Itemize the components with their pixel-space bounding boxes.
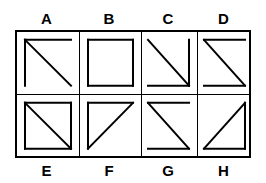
cell-label-f: F (78, 159, 140, 181)
shape-cell-c[interactable] (142, 32, 198, 94)
cell-label-b: B (78, 7, 140, 29)
shape-cell-e[interactable] (17, 95, 80, 157)
shape-cell-b[interactable] (80, 32, 142, 94)
figure-canvas: A B C D (0, 0, 266, 183)
shape-grid-row-top (17, 32, 249, 95)
shape-grid-row-bottom (17, 95, 249, 157)
cell-label-g: G (140, 159, 196, 181)
top-label-row: A B C D (15, 7, 251, 29)
cell-label-c: C (140, 7, 196, 29)
shape-f-icon (80, 95, 141, 157)
shape-c-icon (142, 32, 197, 94)
cell-label-a: A (15, 7, 78, 29)
shape-cell-f[interactable] (80, 95, 142, 157)
shape-cell-h[interactable] (198, 95, 253, 157)
cell-label-d: D (196, 7, 251, 29)
shape-cell-d[interactable] (198, 32, 253, 94)
cell-label-e: E (15, 159, 78, 181)
shape-a-icon (17, 32, 79, 94)
shape-cell-g[interactable] (142, 95, 198, 157)
shape-h-icon (198, 95, 253, 157)
shape-g-icon (142, 95, 197, 157)
bottom-label-row: E F G H (15, 159, 251, 181)
shape-cell-a[interactable] (17, 32, 80, 94)
shape-b-icon (80, 32, 141, 94)
shape-e-icon (17, 95, 79, 157)
shape-d-icon (198, 32, 253, 94)
cell-label-h: H (196, 159, 251, 181)
shape-grid (15, 30, 251, 158)
